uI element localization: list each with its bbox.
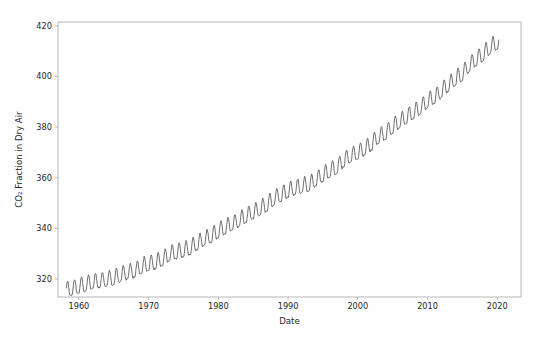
axis-spines-group <box>58 22 521 297</box>
x-tick-label: 2020 <box>487 301 508 311</box>
x-tick-label: 1970 <box>138 301 159 311</box>
y-tick-label: 400 <box>36 71 52 81</box>
axis-ticks-group <box>55 26 497 300</box>
x-tick-label: 1980 <box>208 301 229 311</box>
y-tick-label: 340 <box>36 223 52 233</box>
x-tick-label: 2000 <box>347 301 368 311</box>
y-tick-label: 360 <box>36 173 52 183</box>
co2-line-chart: 1960197019801990200020102020320340360380… <box>0 0 538 343</box>
y-tick-label: 380 <box>36 122 52 132</box>
axis-tick-labels-group: 1960197019801990200020102020320340360380… <box>36 21 507 311</box>
x-tick-label: 2010 <box>417 301 438 311</box>
x-axis-title: Date <box>279 316 300 326</box>
co2-data-series-line <box>66 36 498 296</box>
y-tick-label: 420 <box>36 21 52 31</box>
y-tick-label: 320 <box>36 274 52 284</box>
x-tick-label: 1990 <box>278 301 299 311</box>
x-tick-label: 1960 <box>68 301 89 311</box>
figure-canvas: 1960197019801990200020102020320340360380… <box>0 0 538 343</box>
y-axis-title: CO₂ Fraction in Dry Air <box>14 111 24 208</box>
